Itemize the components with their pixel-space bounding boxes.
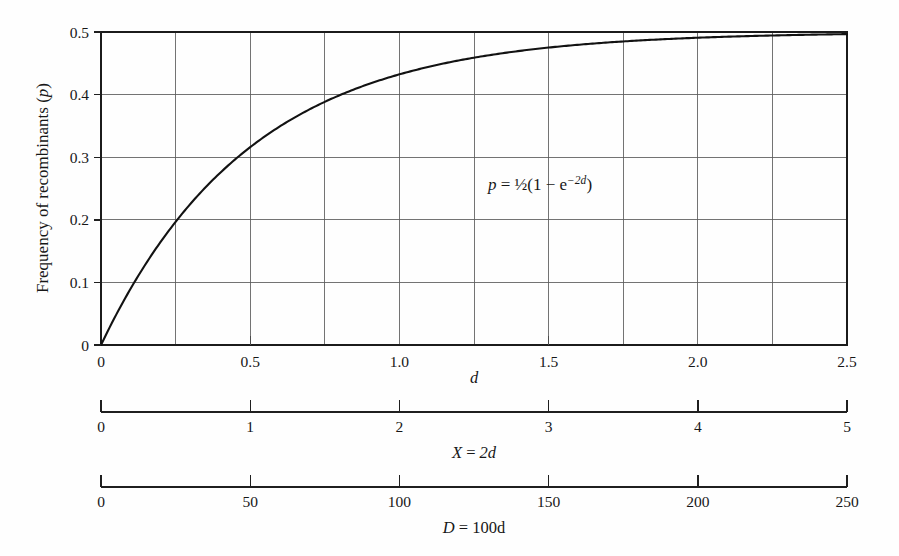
x-tick-label: 2.5	[837, 353, 857, 370]
axis-ticks-x2d: 012345	[97, 400, 851, 435]
y-tick-label: 0.5	[70, 24, 90, 41]
equation-text: p = ½(1 − e−2d)	[487, 174, 592, 194]
axis-tick-label: 50	[242, 493, 258, 510]
axis-tick-label: 250	[835, 493, 859, 510]
secondary-axis-d-100d: 050100150200250 D = 100d	[97, 475, 859, 537]
axis-tick-label: 1	[246, 418, 254, 435]
y-tick-label: 0.2	[70, 211, 89, 228]
grid-group	[101, 32, 847, 345]
recombination-frequency-chart: 00.10.20.30.40.5 00.51.01.52.02.5 Freque…	[0, 0, 899, 556]
y-axis-ticks: 00.10.20.30.40.5	[70, 24, 101, 354]
y-tick-label: 0.1	[70, 274, 89, 291]
y-tick-label: 0	[81, 337, 89, 354]
y-tick-label: 0.3	[70, 149, 90, 166]
y-axis-label: Frequency of recombinants (p)	[33, 83, 52, 293]
y-tick-label: 0.4	[70, 86, 90, 103]
equation-annotation: p = ½(1 − e−2d)	[487, 174, 592, 194]
secondary-axis-x-2d: 012345 X = 2d	[97, 400, 851, 462]
x-tick-label: 2.0	[688, 353, 708, 370]
axis-tick-label: 0	[97, 418, 105, 435]
axis-tick-label: 150	[537, 493, 561, 510]
x-tick-label: 1.5	[539, 353, 559, 370]
x-tick-label: 0.5	[241, 353, 261, 370]
axis-tick-label: 2	[396, 418, 404, 435]
figure-root: 00.10.20.30.40.5 00.51.01.52.02.5 Freque…	[0, 0, 899, 556]
axis-title-d100d: D = 100d	[442, 518, 506, 537]
axis-ticks-d100d: 050100150200250	[97, 475, 859, 510]
axis-tick-label: 200	[686, 493, 710, 510]
x-axis-label: d	[470, 368, 479, 387]
x-tick-label: 0	[97, 353, 105, 370]
x-tick-label: 1.0	[390, 353, 410, 370]
axis-title-x2d: X = 2d	[451, 443, 497, 462]
axis-tick-label: 4	[694, 418, 702, 435]
axis-tick-label: 0	[97, 493, 105, 510]
axis-tick-label: 100	[388, 493, 412, 510]
axis-tick-label: 3	[545, 418, 553, 435]
y-axis-label-text: Frequency of recombinants (p)	[33, 83, 52, 293]
axis-tick-label: 5	[843, 418, 851, 435]
x-axis-label-text: d	[470, 368, 479, 387]
